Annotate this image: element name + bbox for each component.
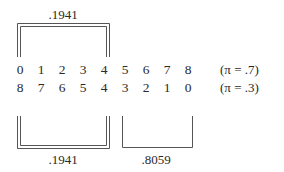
row1-digit-8: 8 [185,62,192,77]
top-bracket-outer [18,24,110,58]
row2-digit-3: 5 [80,80,87,95]
top-bracket-inner [21,27,107,58]
row1-digit-4: 4 [101,62,108,77]
row2-digit-1: 7 [38,80,45,95]
bottom-left-bracket-inner [21,116,107,146]
row2-digit-8: 0 [185,80,192,95]
bottom-right-bracket [123,116,193,148]
row2-digit-6: 2 [143,80,150,95]
row1-pi-label: (π = .7) [220,62,259,77]
row2-digit-2: 6 [59,80,66,95]
row1-digit-3: 3 [80,62,87,77]
row1-digit-5: 5 [122,62,129,77]
row1-digit-7: 7 [164,62,171,77]
bottom-right-bracket-label: .8059 [141,153,170,167]
row2-pi-label: (π = .3) [220,80,259,95]
row1-digit-2: 2 [59,62,66,77]
row2-digit-7: 1 [164,80,171,95]
top-bracket-label: .1941 [48,8,77,22]
row1-digit-6: 6 [143,62,150,77]
bottom-left-bracket-outer [18,116,110,149]
row1-digit-0: 0 [17,62,24,77]
row2-digit-4: 4 [101,80,108,95]
row2-digit-0: 8 [17,80,24,95]
row1-digit-1: 1 [38,62,45,77]
row2-digit-5: 3 [122,80,129,95]
bottom-left-bracket-label: .1941 [48,153,77,167]
